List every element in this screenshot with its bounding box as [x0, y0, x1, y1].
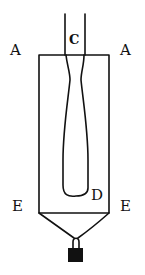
- vessel-conical-bottom: [39, 213, 109, 238]
- label-d: D: [91, 186, 103, 204]
- apparatus-diagram: A A C D E E: [0, 0, 145, 275]
- label-a-right: A: [119, 41, 131, 59]
- inner-bladder: [63, 55, 88, 196]
- label-a-left: A: [9, 41, 21, 59]
- label-e-right: E: [120, 197, 131, 215]
- hook-loop: [73, 238, 79, 248]
- label-c-tube: C: [69, 32, 79, 47]
- label-e-left: E: [12, 197, 23, 215]
- weight-block: [68, 248, 83, 262]
